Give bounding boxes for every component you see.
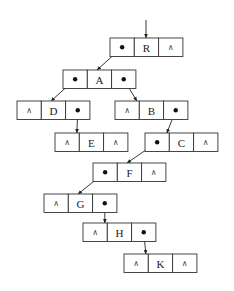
binary-tree-diagram: R∧A∧D∧B∧E∧C∧F∧∧G∧H∧K∧ — [0, 0, 234, 291]
null-pointer-icon: ∧ — [151, 168, 157, 177]
null-pointer-icon: ∧ — [168, 43, 174, 52]
tree-node-f: F∧ — [93, 163, 166, 182]
node-label: C — [178, 137, 185, 149]
null-pointer-icon: ∧ — [113, 138, 119, 147]
tree-node-e: ∧E∧ — [55, 133, 128, 152]
tree-node-c: C∧ — [145, 133, 218, 152]
null-pointer-icon: ∧ — [124, 106, 130, 115]
node-label: A — [95, 74, 103, 86]
null-pointer-icon: ∧ — [64, 138, 70, 147]
tree-node-g: ∧G — [44, 194, 117, 213]
node-label: B — [148, 105, 155, 117]
null-pointer-icon: ∧ — [182, 259, 188, 268]
node-label: R — [143, 42, 151, 54]
pointer-dot-icon — [103, 201, 107, 205]
pointer-dot-icon — [76, 108, 80, 112]
pointer-dot-icon — [120, 45, 124, 49]
node-label: D — [49, 105, 57, 117]
node-label: K — [156, 258, 164, 270]
pointer-dot-icon — [103, 170, 107, 174]
tree-node-k: ∧K∧ — [124, 254, 197, 273]
pointer-dot-icon — [122, 77, 126, 81]
node-label: E — [88, 137, 95, 149]
pointer-dot-icon — [174, 108, 178, 112]
node-label: F — [126, 167, 132, 179]
tree-node-a: A — [63, 70, 136, 89]
tree-node-r: R∧ — [110, 38, 183, 57]
pointer-dot-icon — [155, 140, 159, 144]
null-pointer-icon: ∧ — [92, 228, 98, 237]
null-pointer-icon: ∧ — [53, 199, 59, 208]
node-label: G — [76, 198, 84, 210]
tree-node-d: ∧D — [17, 101, 90, 120]
null-pointer-icon: ∧ — [26, 106, 32, 115]
tree-node-h: ∧H — [83, 223, 156, 242]
tree-nodes: R∧A∧D∧B∧E∧C∧F∧∧G∧H∧K∧ — [17, 38, 218, 273]
pointer-dot-icon — [73, 77, 77, 81]
null-pointer-icon: ∧ — [133, 259, 139, 268]
null-pointer-icon: ∧ — [203, 138, 209, 147]
tree-node-b: ∧B — [115, 101, 188, 120]
node-label: H — [115, 227, 123, 239]
pointer-dot-icon — [142, 230, 146, 234]
